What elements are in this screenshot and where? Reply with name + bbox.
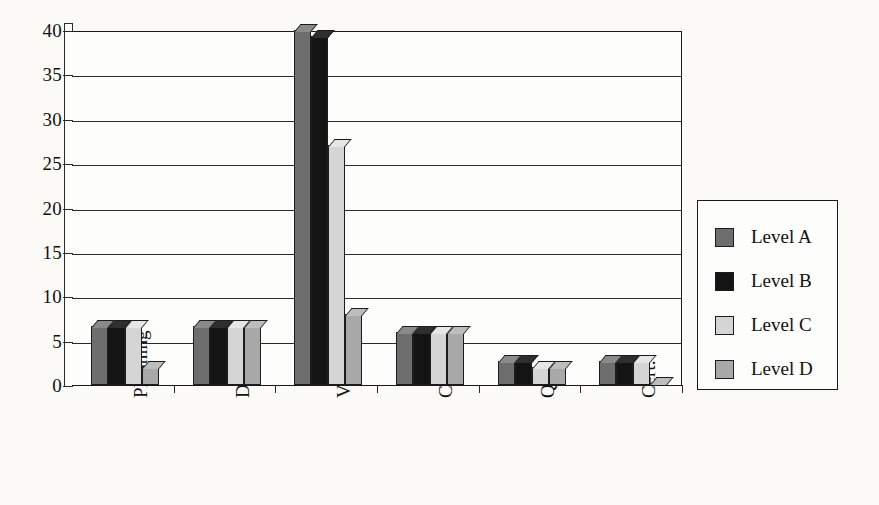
legend-item-level-c[interactable]: Level C bbox=[698, 303, 837, 347]
bar-qa-level-b bbox=[515, 361, 532, 385]
gridline bbox=[72, 254, 681, 255]
chart-legend: Level ALevel BLevel CLevel D bbox=[697, 200, 838, 390]
bar-cm-level-d bbox=[447, 332, 464, 385]
legend-swatch-icon bbox=[715, 316, 734, 335]
legend-label: Level A bbox=[751, 226, 812, 248]
y-axis-tick-label: 5 bbox=[10, 332, 62, 351]
y-axis-tick-labels: 0510152025303540 bbox=[0, 0, 62, 505]
y-axis-tickmark bbox=[63, 164, 73, 165]
legend-swatch-icon bbox=[715, 360, 734, 379]
bar-planning-level-b bbox=[108, 326, 125, 385]
bar-dvlpmt-level-c bbox=[227, 326, 244, 385]
y-axis-tick-label: 10 bbox=[10, 287, 62, 306]
bar-top-face bbox=[311, 30, 335, 38]
bar-planning-level-a bbox=[91, 326, 108, 385]
gridline bbox=[72, 210, 681, 211]
bar-cm-level-c bbox=[430, 332, 447, 385]
bar-planning-level-c bbox=[125, 326, 142, 385]
legend-swatch-icon bbox=[715, 228, 734, 247]
legend-label: Level D bbox=[751, 358, 813, 380]
x-axis-tickmark bbox=[682, 385, 683, 393]
bar-verif-level-a bbox=[294, 30, 311, 385]
y-axis-tick-label: 15 bbox=[10, 243, 62, 262]
x-axis-tickmark bbox=[479, 385, 480, 393]
y-axis-tick-label: 0 bbox=[10, 376, 62, 395]
gridline bbox=[72, 76, 681, 77]
plot-area bbox=[72, 31, 682, 386]
bar-verif-level-c bbox=[328, 145, 345, 385]
y-axis-tickmark bbox=[63, 31, 73, 32]
legend-label: Level C bbox=[751, 314, 812, 336]
y-axis-tickmark bbox=[63, 75, 73, 76]
chart-page: 0510152025303540 PlanningDvlpmtVerif.CMQ… bbox=[0, 0, 879, 505]
y-axis-tickmark bbox=[63, 209, 73, 210]
bar-qa-level-c bbox=[532, 367, 549, 385]
bar-cert-level-c bbox=[633, 361, 650, 385]
bar-cert-level-b bbox=[616, 361, 633, 385]
y-axis-tickmark bbox=[63, 342, 73, 343]
y-axis-tick-label: 30 bbox=[10, 110, 62, 129]
y-axis-tick-label: 35 bbox=[10, 65, 62, 84]
gridline bbox=[72, 165, 681, 166]
bar-dvlpmt-level-d bbox=[244, 326, 261, 385]
bar-qa-level-a bbox=[498, 361, 515, 385]
gridline bbox=[72, 298, 681, 299]
bar-cert-level-d bbox=[650, 383, 667, 385]
y-axis-tick-label: 40 bbox=[10, 21, 62, 40]
x-axis-tickmark bbox=[377, 385, 378, 393]
bar-top-face bbox=[294, 24, 318, 32]
y-axis-tickmark bbox=[63, 120, 73, 121]
bar-verif-level-d bbox=[345, 314, 362, 385]
y-axis-tick-label: 20 bbox=[10, 199, 62, 218]
gridline bbox=[72, 121, 681, 122]
gridline bbox=[72, 343, 681, 344]
bar-verif-level-b bbox=[311, 36, 328, 385]
bar-planning-level-d bbox=[142, 367, 159, 385]
x-axis-tickmark bbox=[275, 385, 276, 393]
legend-swatch-icon bbox=[715, 272, 734, 291]
legend-item-level-b[interactable]: Level B bbox=[698, 259, 837, 303]
bar-qa-level-d bbox=[549, 367, 566, 385]
x-axis-tickmark bbox=[174, 385, 175, 393]
bar-cert-level-a bbox=[599, 361, 616, 385]
bar-dvlpmt-level-a bbox=[193, 326, 210, 385]
y-axis-tickmark bbox=[63, 253, 73, 254]
bar-top-face bbox=[345, 308, 369, 316]
y-axis-tickmark bbox=[63, 297, 73, 298]
legend-item-level-d[interactable]: Level D bbox=[698, 347, 837, 391]
legend-label: Level B bbox=[751, 270, 812, 292]
x-axis-tickmark bbox=[580, 385, 581, 393]
legend-item-level-a[interactable]: Level A bbox=[698, 215, 837, 259]
bar-dvlpmt-level-b bbox=[210, 326, 227, 385]
y-axis-tick-label: 25 bbox=[10, 154, 62, 173]
bar-cm-level-b bbox=[413, 332, 430, 385]
y-axis-tickmark bbox=[63, 386, 73, 387]
bar-top-face bbox=[328, 139, 352, 147]
bar-cm-level-a bbox=[396, 332, 413, 385]
